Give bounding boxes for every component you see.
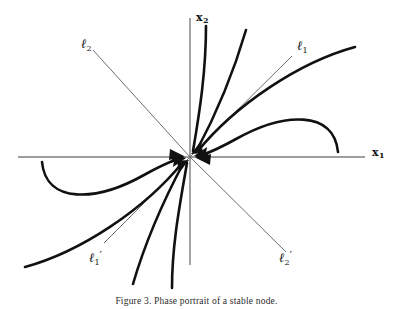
- figure-caption: Figure 3. Phase portrait of a stable nod…: [0, 296, 393, 309]
- axes-group: [18, 18, 365, 265]
- axis-label-x1: x1: [372, 147, 385, 159]
- line-label-l1: ℓ1: [297, 38, 308, 55]
- phase-portrait-plot: [0, 0, 393, 309]
- trajectory-ur-2: [196, 30, 246, 152]
- eigenline-l2: [93, 50, 190, 157]
- trajectory-ur-1: [193, 26, 206, 151]
- figure-container: x2 x1 ℓ2 ℓ1 ℓ1′ ℓ2′ Figure 3. Phase port…: [0, 0, 393, 309]
- line-label-l2-prime: ℓ2′: [279, 250, 292, 267]
- trajectories-upper-right: [193, 26, 355, 156]
- trajectories-lower-left: [25, 158, 187, 288]
- axis-label-x1-subscript: 1: [379, 150, 385, 160]
- axis-label-x2-subscript: 2: [203, 15, 209, 25]
- axis-label-x2: x2: [196, 12, 209, 24]
- line-label-l1-prime: ℓ1′: [89, 250, 102, 267]
- eigenline-l2-prime: [190, 157, 286, 252]
- line-label-l2: ℓ2: [81, 36, 92, 53]
